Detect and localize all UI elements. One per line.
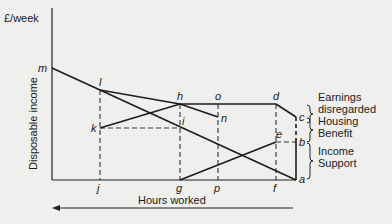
point-o: o (215, 90, 221, 102)
y-axis-unit: £/week (4, 12, 39, 24)
point-b: b (299, 136, 305, 148)
point-f: f (273, 182, 277, 194)
income-diagram: £/week Disposable income m l h o d c n k… (0, 0, 392, 224)
y-axis-label: Disposable income (27, 77, 39, 170)
label-support: Support (318, 157, 357, 169)
line-m-l (52, 68, 100, 90)
brace-housing-benefit (307, 118, 313, 142)
label-benefit: Benefit (318, 127, 352, 139)
point-c: c (299, 111, 305, 123)
line-l-h (100, 90, 180, 104)
point-a: a (299, 173, 305, 185)
point-e: e (276, 128, 282, 140)
label-income: Income (318, 145, 354, 157)
point-d: d (273, 90, 280, 102)
point-n: n (221, 112, 227, 124)
x-axis-label: Hours worked (138, 194, 206, 206)
point-i: i (182, 115, 185, 127)
label-earnings: Earnings (318, 91, 362, 103)
line-d-c (276, 104, 296, 117)
point-l: l (99, 76, 102, 88)
point-p: p (213, 182, 220, 194)
point-h: h (177, 90, 183, 102)
diagram-canvas: £/week Disposable income m l h o d c n k… (0, 0, 392, 224)
label-disregarded: disregarded (318, 103, 376, 115)
point-g: g (176, 182, 183, 194)
point-m: m (38, 62, 47, 74)
point-j: j (95, 182, 100, 194)
brace-income-support (307, 143, 313, 179)
line-g-e (180, 142, 276, 180)
point-k: k (91, 122, 97, 134)
hours-arrow-head-icon (52, 205, 60, 211)
line-h-n (180, 104, 218, 117)
label-housing: Housing (318, 115, 358, 127)
